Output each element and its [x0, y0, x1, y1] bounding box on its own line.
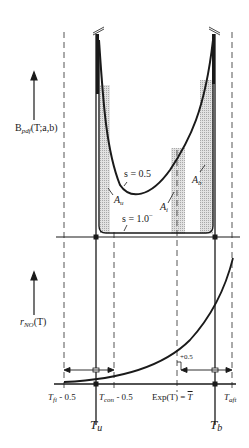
label-t-aft: Taft: [224, 393, 236, 402]
label-area-a-u: Au: [114, 195, 124, 205]
y-label-b-pdf: Bpdf(T;a,b): [15, 123, 58, 133]
label-offset: +0.5: [180, 354, 193, 361]
label-exp-t: Exp(T) = T: [152, 393, 193, 402]
label-t-b: Tb: [210, 418, 222, 431]
label-area-a-b: Ab: [192, 175, 202, 185]
area-a-i: [171, 148, 185, 234]
label-s-10: s = 1.0−: [122, 213, 153, 224]
label-t-fi: Tfi - 0.5: [48, 393, 76, 402]
label-t-u: Tu: [90, 418, 102, 431]
label-area-a-i: Ai: [160, 202, 168, 212]
offset-step: [177, 362, 181, 370]
label-s-05: s = 0.5: [124, 169, 151, 179]
curve-r-no: [64, 258, 233, 382]
y-label-r-no: rNO(T): [20, 317, 46, 327]
curve-s-05: [99, 40, 213, 194]
label-t-con: Tcon - 0.5: [99, 393, 133, 402]
